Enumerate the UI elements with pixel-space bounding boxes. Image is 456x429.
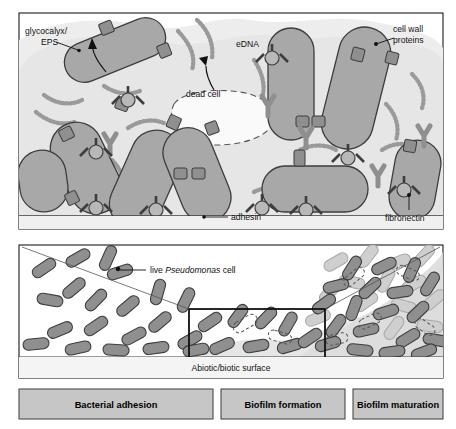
- live-cell-label-genus: Pseudomonas: [165, 265, 221, 275]
- stage-box-bacterial-adhesion[interactable]: Bacterial adhesion: [19, 389, 213, 419]
- stage-box-biofilm-maturation[interactable]: Biofilm maturation: [353, 389, 443, 419]
- biofilm-figure: glycocalyx/ EPS eDNA dead cell cell wall…: [0, 0, 456, 429]
- cell-wall-leader-dot: [374, 42, 378, 46]
- stage-label-biofilm-formation: Biofilm formation: [245, 400, 322, 410]
- figure-canvas: glycocalyx/ EPS eDNA dead cell cell wall…: [0, 0, 456, 429]
- bottom-panel: live Pseudomonas cell Abiotic/biotic sur…: [19, 242, 450, 378]
- dead-cell-label: dead cell: [186, 89, 220, 99]
- fibronectin-label: fibronectin: [385, 213, 425, 223]
- live-cell-label-suffix: cell: [220, 265, 235, 275]
- top-panel: glycocalyx/ EPS eDNA dead cell cell wall…: [15, 12, 445, 238]
- stage-label-biofilm-maturation: Biofilm maturation: [357, 400, 439, 410]
- adhesin-leader-dot: [202, 215, 206, 219]
- cell-wall-proteins-label: cell wall: [393, 24, 423, 34]
- fibronectin-leader-dot: [407, 193, 411, 197]
- edna-label: eDNA: [236, 39, 259, 49]
- glycocalyx-label: glycocalyx/: [25, 26, 68, 36]
- adhesin-label: adhesin: [231, 212, 261, 222]
- glycocalyx-leader-dot: [77, 49, 81, 53]
- abiotic-surface-label: Abiotic/biotic surface: [192, 363, 271, 373]
- stage-box-biofilm-formation[interactable]: Biofilm formation: [221, 389, 345, 419]
- live-cell-label: live Pseudomonas cell: [150, 265, 236, 275]
- glycocalyx-label-line2: EPS: [41, 37, 58, 47]
- live-cell-label-prefix: live: [150, 265, 165, 275]
- stage-label-bacterial-adhesion: Bacterial adhesion: [75, 400, 158, 410]
- stage-boxes: Bacterial adhesion Biofilm formation Bio…: [19, 389, 443, 419]
- cell-wall-proteins-label-line2: proteins: [393, 35, 424, 45]
